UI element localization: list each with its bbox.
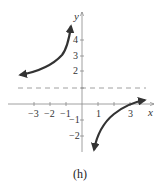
y-tick-label: −1 [69, 114, 80, 125]
x-tick-label: −3 [28, 108, 39, 119]
y-tick-label: 3 [73, 50, 78, 61]
figure-caption: (h) [73, 167, 87, 181]
graph: −3 −2 −1 1 3 4 3 2 −1 −2 x y (h) [0, 0, 163, 186]
curve-left-branch [20, 26, 71, 75]
y-tick-label: 2 [73, 65, 78, 76]
x-tick-label: 3 [128, 108, 133, 119]
y-axis-label: y [73, 10, 79, 22]
x-axis-label: x [147, 106, 153, 118]
x-tick-label: −2 [44, 108, 55, 119]
curve-right-branch [94, 100, 145, 150]
y-tick-label: −2 [69, 130, 80, 141]
x-tick-label: 1 [96, 108, 101, 119]
y-tick-label: 4 [73, 34, 78, 45]
